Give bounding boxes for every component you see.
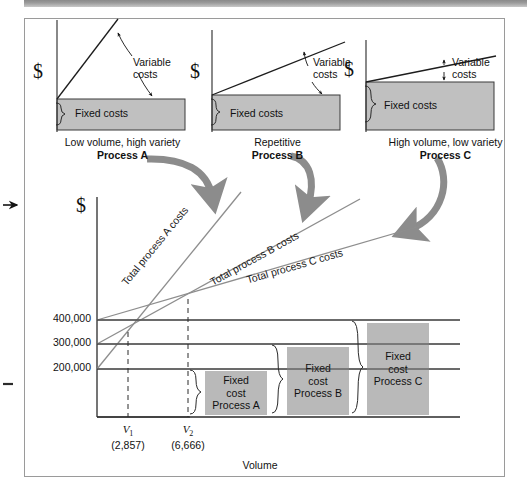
mini-b-caption-line2: Process B <box>215 150 340 162</box>
mini-a-fixed-costs-label: Fixed costs <box>75 108 128 120</box>
fc-b-line2: cost <box>308 375 327 387</box>
fixed-cost-box-process-a: Fixed cost Process A <box>205 371 267 415</box>
fc-c-line1: Fixed <box>385 350 411 362</box>
x-axis-label: Volume <box>215 460 305 472</box>
fc-a-line2: cost <box>226 387 245 399</box>
mini-b-dollar-label: $ <box>190 60 200 82</box>
fc-a-line1: Fixed <box>223 374 249 386</box>
v2-subscript: 2 <box>189 429 193 438</box>
mini-a-variable-line1: Variable <box>133 56 171 68</box>
fixed-cost-box-process-b: Fixed cost Process B <box>287 347 349 415</box>
mini-a-caption-line1: Low volume, high variety <box>45 137 200 149</box>
ytick-300000: 300,000 <box>27 337 91 349</box>
top-gray-bar <box>24 0 527 7</box>
fc-a-line3: Process A <box>212 399 259 411</box>
v2-symbol: V2 <box>168 423 208 439</box>
mini-c-fixed-costs-label: Fixed costs <box>384 100 437 112</box>
margin-marks <box>3 205 17 384</box>
mini-a-dollar-label: $ <box>33 60 43 82</box>
mini-b-caption-line1: Repetitive <box>215 137 340 149</box>
ytick-400000: 400,000 <box>27 313 91 325</box>
mini-c-variable-line2: costs <box>452 68 490 80</box>
mini-c-variable-line1: Variable <box>452 56 490 68</box>
v2-value: (6,666) <box>163 440 213 452</box>
fc-b-line3: Process B <box>294 387 342 399</box>
figure-root: $ Variable costs Fixed costs Low volume,… <box>0 0 527 491</box>
mini-a-caption-line2: Process A <box>45 150 200 162</box>
fc-c-line3: Process C <box>374 375 422 387</box>
mini-c-caption-line2: Process C <box>368 150 523 162</box>
mini-b-fixed-costs-label: Fixed costs <box>230 108 283 120</box>
topbar-cap <box>0 0 24 7</box>
v1-value: (2,857) <box>103 440 153 452</box>
ytick-200000: 200,000 <box>27 362 91 374</box>
mini-c-caption-line1: High volume, low variety <box>368 137 523 149</box>
mini-a-variable-line2: costs <box>133 68 171 80</box>
main-chart-dollar-label: $ <box>76 194 86 216</box>
v1-subscript: 1 <box>129 429 133 438</box>
v1-symbol: V1 <box>108 423 148 439</box>
mini-a-variable-costs-label: Variable costs <box>133 56 171 81</box>
fc-c-line2: cost <box>388 363 407 375</box>
mini-c-dollar-label: $ <box>344 58 354 80</box>
fixed-cost-box-process-c: Fixed cost Process C <box>367 323 429 415</box>
fc-b-line1: Fixed <box>305 362 331 374</box>
mini-c-variable-costs-label: Variable costs <box>452 56 490 81</box>
